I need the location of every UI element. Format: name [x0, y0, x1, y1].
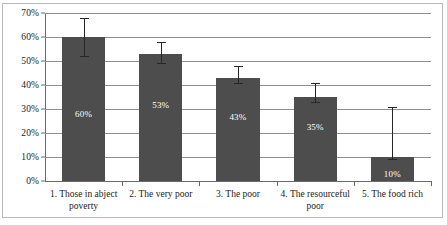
x-axis-category-label: 2. The very poor: [122, 188, 199, 200]
error-bar-cap-upper: [157, 42, 166, 43]
y-axis-tick-mark: [41, 37, 45, 38]
error-bar-cap-lower: [311, 102, 320, 103]
y-axis-tick-label: 40%: [21, 80, 39, 90]
error-bar-stem: [315, 83, 316, 102]
plot-area: 0%10%20%30%40%50%60%70% 60%53%43%35%10% …: [45, 13, 431, 181]
bar-value-label: 60%: [62, 109, 105, 119]
gridline: [45, 181, 431, 182]
error-bar-cap-upper: [80, 18, 89, 19]
x-axis-tick-mark: [199, 181, 200, 186]
bar: 10%: [371, 157, 414, 181]
error-bar-cap-lower: [157, 63, 166, 64]
y-axis-tick-label: 30%: [21, 104, 39, 114]
bar-value-label: 35%: [294, 122, 337, 132]
y-axis-tick-mark: [41, 109, 45, 110]
x-axis-category-label: 4. The resourceful poor: [277, 188, 354, 212]
y-axis-tick-label: 70%: [21, 8, 39, 18]
bar: 43%: [216, 78, 259, 181]
error-bar-stem: [238, 66, 239, 83]
y-axis-tick-label: 60%: [21, 32, 39, 42]
error-bar-cap-lower: [388, 159, 397, 160]
bar-value-label: 10%: [371, 169, 414, 179]
bar: 35%: [294, 97, 337, 181]
y-axis-tick-mark: [41, 181, 45, 182]
y-axis-tick-label: 20%: [21, 128, 39, 138]
x-axis-tick-mark: [277, 181, 278, 186]
bar-value-label: 53%: [139, 100, 182, 110]
y-axis-tick-label: 10%: [21, 152, 39, 162]
error-bar-cap-lower: [80, 56, 89, 57]
bar-chart: 0%10%20%30%40%50%60%70% 60%53%43%35%10% …: [0, 0, 447, 225]
error-bar-cap-upper: [388, 107, 397, 108]
y-axis-tick-mark: [41, 13, 45, 14]
gridline: [45, 13, 431, 14]
error-bar-cap-upper: [234, 66, 243, 67]
y-axis-tick-label: 0%: [26, 176, 39, 186]
y-axis-tick-mark: [41, 157, 45, 158]
error-bar-cap-lower: [234, 83, 243, 84]
bar: 60%: [62, 37, 105, 181]
y-axis-tick-mark: [41, 133, 45, 134]
x-axis-category-label: 5. The food rich: [354, 188, 431, 200]
x-axis-tick-mark: [431, 181, 432, 186]
error-bar-cap-upper: [311, 83, 320, 84]
error-bar-stem: [161, 42, 162, 64]
error-bar-stem: [392, 107, 393, 160]
y-axis-tick-mark: [41, 61, 45, 62]
bar-value-label: 43%: [216, 112, 259, 122]
x-axis-tick-mark: [122, 181, 123, 186]
x-axis-tick-mark: [354, 181, 355, 186]
y-axis-tick-label: 50%: [21, 56, 39, 66]
x-axis-category-label: 3. The poor: [199, 188, 276, 200]
bar: 53%: [139, 54, 182, 181]
y-axis-tick-mark: [41, 85, 45, 86]
x-axis-category-label: 1. Those in abject poverty: [45, 188, 122, 212]
error-bar-stem: [84, 18, 85, 56]
